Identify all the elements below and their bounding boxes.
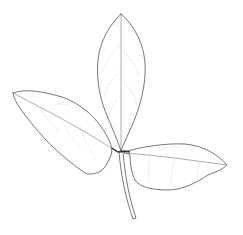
right-leaflet-midrib bbox=[124, 153, 227, 165]
left-leaflet-outline bbox=[13, 91, 112, 174]
left-leaflet bbox=[13, 91, 117, 174]
terminal-leaflet-outline bbox=[97, 14, 145, 151]
right-leaflet-veinlets bbox=[149, 147, 201, 186]
left-leaflet-midrib bbox=[13, 93, 117, 152]
petiole bbox=[119, 152, 136, 219]
leaf-drawing bbox=[0, 0, 243, 235]
right-leaflet-outline bbox=[124, 144, 227, 190]
right-leaflet bbox=[124, 144, 227, 190]
